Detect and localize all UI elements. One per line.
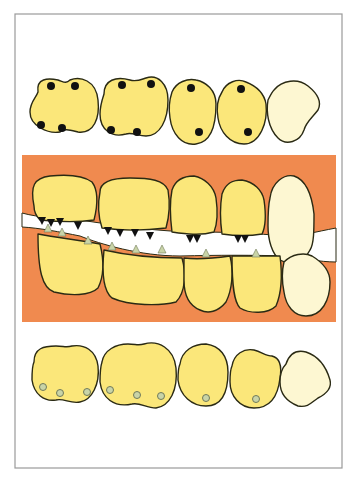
lower-molar-1-lateral	[38, 234, 103, 295]
dark-contact-dot	[195, 128, 203, 136]
light-contact-dot	[158, 393, 165, 400]
dark-contact-dot	[107, 126, 115, 134]
dark-contact-dot	[58, 124, 66, 132]
dark-contact-dot	[47, 82, 55, 90]
light-contact-dot	[107, 387, 114, 394]
dark-contact-dot	[133, 128, 141, 136]
upper-canine-lateral	[268, 176, 314, 263]
light-contact-dot	[134, 392, 141, 399]
lower-premolar-2-lateral	[232, 256, 281, 312]
occlusion-diagram	[0, 0, 356, 478]
lower-molar-2-lateral	[103, 250, 185, 305]
dark-contact-dot	[71, 82, 79, 90]
light-contact-dot	[84, 389, 91, 396]
light-contact-dot	[203, 395, 210, 402]
dark-contact-dot	[187, 84, 195, 92]
dark-contact-dot	[244, 128, 252, 136]
light-contact-dot	[253, 396, 260, 403]
light-contact-dot	[57, 390, 64, 397]
dark-contact-dot	[147, 80, 155, 88]
lower-premolar-1-lateral	[184, 256, 232, 312]
light-contact-dot	[40, 384, 47, 391]
upper-molar-2-lateral	[99, 178, 170, 230]
lateral-bite-view	[22, 155, 336, 322]
upper-premolar-1-lateral	[171, 176, 218, 234]
upper-premolar-2-lateral	[221, 180, 266, 236]
upper-molar-1-lateral	[33, 175, 97, 221]
dark-contact-dot	[37, 121, 45, 129]
dark-contact-dot	[118, 81, 126, 89]
dark-contact-dot	[237, 85, 245, 93]
